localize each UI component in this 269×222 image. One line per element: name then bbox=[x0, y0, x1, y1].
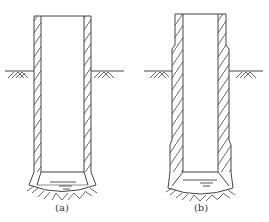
panel-b-label: (b) bbox=[186, 202, 216, 213]
panel-a-label: (a) bbox=[47, 202, 77, 213]
panel-b bbox=[144, 14, 263, 201]
left-wall bbox=[34, 16, 41, 172]
right-wall-stepped bbox=[218, 14, 231, 172]
ground-surface bbox=[5, 71, 124, 78]
ground-surface bbox=[144, 71, 263, 78]
water-level-symbol bbox=[183, 180, 217, 186]
water-level-symbol bbox=[50, 182, 76, 189]
right-wall bbox=[84, 16, 91, 172]
left-wall-stepped bbox=[170, 14, 183, 172]
panel-a bbox=[5, 16, 124, 200]
diagram-canvas bbox=[0, 0, 269, 222]
